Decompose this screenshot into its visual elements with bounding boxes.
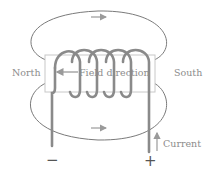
north-pole-label: North xyxy=(12,67,41,78)
field-direction-label: Field direction xyxy=(79,67,150,78)
current-label: Current xyxy=(163,138,201,149)
negative-terminal-label: − xyxy=(46,151,59,169)
positive-terminal-label: + xyxy=(144,152,157,170)
electromagnet-diagram: Field direction North South Current − + xyxy=(0,0,210,174)
south-pole-label: South xyxy=(174,67,202,78)
field-line-top xyxy=(31,11,167,60)
